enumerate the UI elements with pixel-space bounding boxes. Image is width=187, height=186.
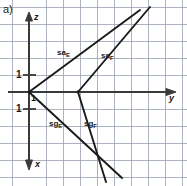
vertex-second-node: [77, 91, 80, 94]
z-axis-label: z: [34, 13, 39, 22]
x-axis-label: x: [35, 160, 40, 169]
y-axis-label: y: [169, 94, 174, 103]
vertex-origin-node: [28, 91, 31, 94]
curve-label-sa-E: saE: [57, 49, 70, 57]
curve-label-sa-E-base: sa: [57, 48, 66, 57]
x-axis-arrowhead: [26, 160, 33, 170]
panel-label: a): [3, 4, 13, 15]
curve-label-sg-E: sgE: [49, 120, 62, 128]
curve-label-sg-E-sub: E: [58, 123, 62, 129]
tick-label-y-1: 1: [31, 94, 36, 103]
curve-label-sa-F-sub: F: [110, 55, 114, 61]
curve-sg-E: [29, 92, 122, 178]
curve-label-sg-E-base: sg: [49, 119, 58, 128]
curve-label-sg-F-base: sg: [84, 119, 93, 128]
curve-label-sa-E-sub: E: [66, 52, 70, 58]
figure-panel-a: a) z y x 1 1 1 saE saF sgE sgF: [0, 0, 187, 186]
curve-label-sa-F-base: sa: [101, 51, 110, 60]
tick-label-z-minus-1: 1: [16, 104, 22, 114]
curve-sg-F: [78, 92, 106, 182]
axes: [8, 12, 176, 170]
coordinate-diagram: [0, 0, 187, 186]
curve-label-sg-F: sgF: [84, 120, 97, 128]
tick-label-z-1: 1: [16, 70, 22, 80]
curve-label-sg-F-sub: F: [93, 123, 97, 129]
z-axis-arrowhead: [26, 12, 33, 21]
curve-label-sa-F: saF: [101, 52, 114, 60]
